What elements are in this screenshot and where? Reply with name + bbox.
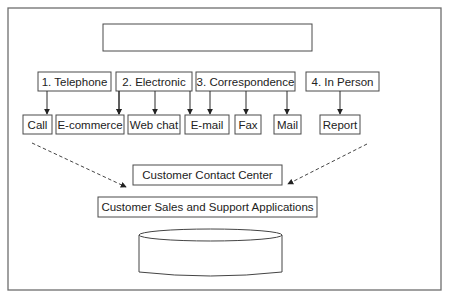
database-cylinder-icon [139, 229, 282, 276]
dashed-arrow-right [288, 144, 367, 184]
touchpoint-box: Call [23, 115, 52, 134]
contact-center-label: Customer Contact Center [142, 169, 273, 181]
channel-label: 3. Correspondence [197, 76, 295, 88]
title-box [103, 24, 312, 51]
touchpoint-label: Mail [277, 119, 298, 131]
applications-label: Customer Sales and Support Applications [101, 201, 313, 213]
dashed-arrow-left [32, 143, 126, 187]
touchpoint-label: Call [28, 119, 48, 131]
touchpoint-box: Fax [235, 115, 261, 134]
channel-box: 1. Telephone [38, 72, 111, 91]
touchpoint-box: Web chat [128, 115, 180, 134]
touchpoint-row: CallE-commerceWeb chatE-mailFaxMailRepor… [23, 115, 360, 134]
touchpoint-box: E-mail [185, 115, 229, 134]
touchpoint-box: E-commerce [56, 115, 124, 134]
touchpoint-box: Report [320, 115, 360, 134]
touchpoint-label: E-mail [191, 119, 224, 131]
channel-box: 2. Electronic [116, 72, 192, 91]
touchpoint-label: Report [323, 119, 358, 131]
touchpoint-label: Fax [238, 119, 257, 131]
touchpoint-box: Mail [274, 115, 301, 134]
channel-box: 4. In Person [306, 72, 379, 91]
channel-label: 4. In Person [311, 76, 373, 88]
channel-box: 3. Correspondence [196, 72, 295, 91]
contact-channels-diagram: 1. Telephone2. Electronic3. Corresponden… [0, 0, 450, 296]
channel-label: 2. Electronic [122, 76, 186, 88]
channel-label: 1. Telephone [42, 76, 108, 88]
channel-row: 1. Telephone2. Electronic3. Corresponden… [38, 72, 379, 91]
channel-connectors [47, 91, 340, 114]
touchpoint-label: Web chat [130, 119, 179, 131]
touchpoint-label: E-commerce [57, 119, 122, 131]
